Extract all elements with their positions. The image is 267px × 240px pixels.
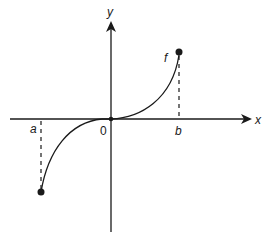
origin-label: 0 <box>100 124 107 138</box>
endpoint-a-dot <box>38 189 45 196</box>
y-axis-label: y <box>106 5 114 19</box>
origin-dot <box>109 117 114 122</box>
endpoint-b-dot <box>176 49 183 56</box>
point-label-a: a <box>30 122 37 136</box>
curve-label-f: f <box>164 51 169 65</box>
function-graph: y x 0 f a b <box>0 0 267 240</box>
curve-f <box>41 55 179 192</box>
x-axis-label: x <box>254 113 262 127</box>
point-label-b: b <box>175 124 182 138</box>
